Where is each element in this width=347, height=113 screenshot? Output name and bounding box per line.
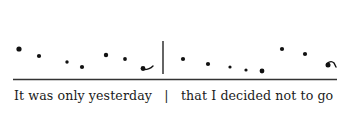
syllable-dot — [80, 65, 84, 69]
syllable-dot — [123, 57, 127, 61]
phrase-2: that I decided not to go — [181, 88, 333, 103]
syllable-dot — [280, 47, 284, 51]
syllable-dot — [104, 53, 108, 57]
syllable-dot — [16, 46, 21, 51]
syllable-dot — [260, 69, 265, 74]
sentence-caption: It was only yesterday | that I decided n… — [14, 88, 344, 106]
syllable-dot — [228, 65, 231, 68]
syllable-dot — [37, 54, 41, 58]
tone-marks — [143, 62, 336, 70]
syllable-dots — [16, 46, 330, 73]
syllable-dot — [65, 60, 68, 63]
syllable-dot — [206, 62, 210, 66]
syllable-dot — [181, 57, 185, 61]
syllable-dot — [303, 52, 307, 56]
phrase-1: It was only yesterday — [14, 88, 152, 103]
syllable-dot — [244, 68, 247, 71]
